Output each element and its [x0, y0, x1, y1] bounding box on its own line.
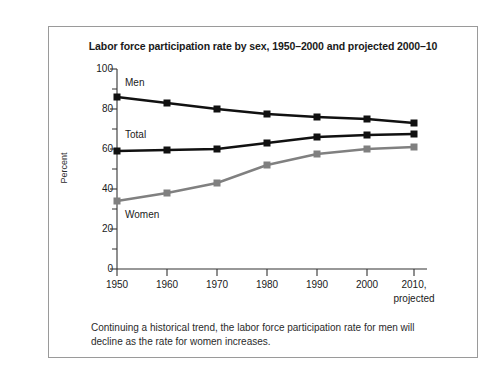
chart-svg	[49, 27, 479, 359]
series-label-total: Total	[125, 129, 146, 140]
x-tick-sublabel-projected: projected	[384, 293, 444, 304]
figure-container: Labor force participation rate by sex, 1…	[48, 26, 478, 358]
plot-area: Percent 100 80 60 40 20 0	[49, 27, 479, 359]
series-label-women: Women	[125, 209, 159, 220]
series-women	[114, 144, 418, 205]
figure-caption: Continuing a historical trend, the labor…	[91, 321, 431, 349]
y-minor-ticks	[112, 89, 117, 249]
x-ticks	[117, 269, 414, 276]
series-men	[114, 94, 418, 127]
x-tick-label-2010: 2010,	[384, 279, 444, 290]
series-total	[114, 131, 418, 155]
series-label-men: Men	[125, 77, 144, 88]
